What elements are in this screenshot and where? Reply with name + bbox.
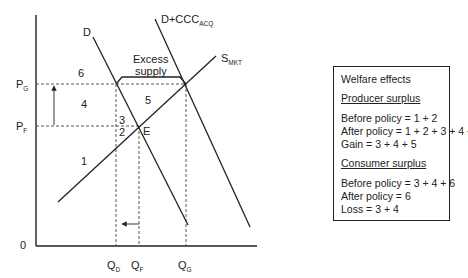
excess-supply-bracket <box>116 77 186 84</box>
qd-label: QD <box>107 259 121 273</box>
consumer-loss: Loss = 3 + 4 <box>341 203 449 216</box>
pg-label: PG <box>16 78 28 92</box>
area-2-label: 2 <box>119 126 125 138</box>
producer-after: After policy = 1 + 2 + 3 + 4 + 5 <box>341 125 449 138</box>
area-3-label: 3 <box>119 114 125 126</box>
qf-label: QF <box>131 259 144 273</box>
producer-before: Before policy = 1 + 2 <box>341 112 449 125</box>
area-1-label: 1 <box>81 155 87 167</box>
consumer-after: After policy = 6 <box>341 190 449 203</box>
qg-label: QG <box>178 259 192 273</box>
consumer-surplus-heading: Consumer surplus <box>341 157 426 170</box>
area-5-label: 5 <box>145 94 151 106</box>
excess-supply-label-line1: Excess <box>133 53 169 65</box>
consumer-before: Before policy = 3 + 4 + 6 <box>341 177 449 190</box>
demand-plus-ccc-curve <box>155 19 250 227</box>
producer-surplus-heading: Producer surplus <box>341 92 420 105</box>
demand-plus-ccc-label: D+CCCACQ <box>161 13 213 28</box>
welfare-title: Welfare effects <box>341 73 449 86</box>
pf-label: PF <box>16 120 27 134</box>
area-4-label: 4 <box>81 98 87 110</box>
equilibrium-label: E <box>143 125 150 137</box>
demand-label: D <box>83 26 91 38</box>
origin-label: 0 <box>20 239 26 251</box>
supply-label: SMKT <box>221 52 242 66</box>
producer-gain: Gain = 3 + 4 + 5 <box>341 138 449 151</box>
excess-supply-label-line2: supply <box>135 65 167 77</box>
welfare-effects-box: Welfare effects Producer surplus Before … <box>333 66 450 221</box>
area-6-label: 6 <box>78 67 84 79</box>
